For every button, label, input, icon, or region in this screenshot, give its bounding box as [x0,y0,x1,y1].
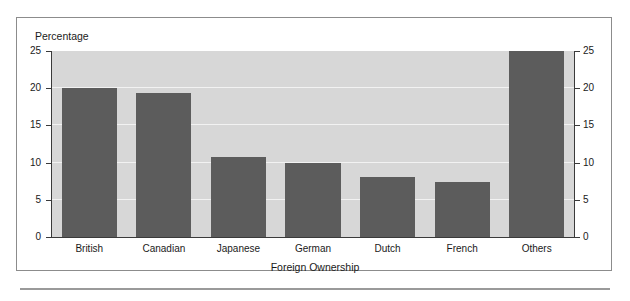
y-tick-right [575,125,580,126]
gridline [52,87,574,88]
y-tick-label-left: 15 [30,120,41,130]
figure-page: Percentage 00551010151520202525 BritishC… [0,0,630,301]
y-tick-label-left: 10 [30,158,41,168]
y-tick-right [575,237,580,238]
x-tick-label: Japanese [198,243,278,255]
bar [509,51,564,237]
bar [62,88,117,237]
y-tick-label-right: 25 [583,46,594,56]
x-tick-label: British [49,243,129,255]
x-tick-label: Dutch [348,243,428,255]
y-tick-label-right: 0 [583,232,589,242]
y-tick-right [575,51,580,52]
y-axis-title: Percentage [35,30,89,42]
y-axis-left-line [51,51,52,238]
y-tick-left [46,125,51,126]
y-tick-label-right: 5 [583,195,589,205]
y-tick-left [46,237,51,238]
bar [435,182,490,237]
y-tick-left [46,51,51,52]
x-tick-label: Others [497,243,577,255]
y-tick-label-right: 15 [583,120,594,130]
x-tick-label: French [422,243,502,255]
y-tick-label-left: 0 [35,232,41,242]
gridline [52,124,574,125]
y-tick-label-right: 20 [583,83,594,93]
y-tick-label-left: 20 [30,83,41,93]
plot-area [52,51,574,237]
bar [211,157,266,237]
y-tick-left [46,163,51,164]
x-tick-label: Canadian [124,243,204,255]
y-tick-right [575,88,580,89]
horizontal-rule [20,288,610,290]
y-tick-label-left: 25 [30,46,41,56]
x-tick-label: German [273,243,353,255]
x-axis-line [51,237,575,238]
bar [136,93,191,237]
y-tick-right [575,163,580,164]
y-tick-right [575,200,580,201]
x-axis-title: Foreign Ownership [0,261,630,273]
y-tick-label-left: 5 [35,195,41,205]
y-tick-left [46,88,51,89]
bar [285,163,340,237]
y-tick-label-right: 10 [583,158,594,168]
bar [360,177,415,237]
y-tick-left [46,200,51,201]
y-axis-right-line [574,51,575,238]
